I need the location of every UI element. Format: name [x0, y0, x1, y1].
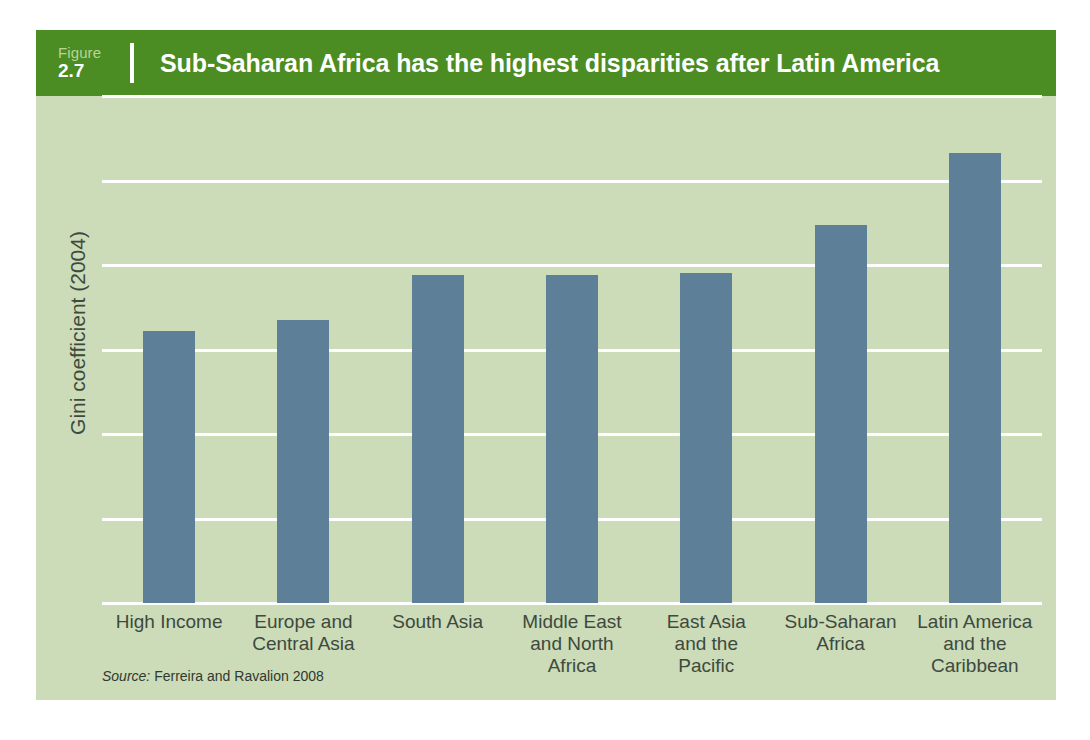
x-axis-tick-label-line: East Asia: [639, 611, 773, 633]
x-axis-tick-label: Europe andCentral Asia: [236, 611, 370, 655]
x-axis-tick-label-line: South Asia: [371, 611, 505, 633]
x-axis-tick-label: Middle Eastand NorthAfrica: [505, 611, 639, 677]
x-axis-tick-label-line: and the: [908, 633, 1042, 655]
bar: [277, 320, 329, 603]
bar: [546, 275, 598, 603]
x-axis-tick-label-line: Latin America: [908, 611, 1042, 633]
gridline: [102, 180, 1042, 183]
x-axis-tick-label-line: Caribbean: [908, 655, 1042, 677]
bar: [143, 331, 195, 603]
plot-wrap: Gini coefficient (2004) 0102030405060 Hi…: [36, 96, 1056, 700]
bar: [412, 275, 464, 603]
x-axis-tick-label: South Asia: [371, 611, 505, 633]
x-axis-tick-label-line: Sub-Saharan: [773, 611, 907, 633]
header-divider: [130, 43, 134, 83]
source-label: Source:: [102, 668, 150, 684]
figure-header: Figure 2.7 Sub-Saharan Africa has the hi…: [36, 30, 1056, 96]
figure-number: 2.7: [58, 61, 130, 81]
figure-panel: Figure 2.7 Sub-Saharan Africa has the hi…: [36, 30, 1056, 700]
x-axis-tick-label-line: High Income: [102, 611, 236, 633]
x-axis-tick-label: Sub-SaharanAfrica: [773, 611, 907, 655]
x-axis-tick-label: High Income: [102, 611, 236, 633]
x-axis-tick-label-line: Central Asia: [236, 633, 370, 655]
bar: [815, 225, 867, 603]
plot-area: 0102030405060 High IncomeEurope andCentr…: [102, 96, 1042, 603]
x-axis-tick-label-line: Pacific: [639, 655, 773, 677]
x-axis-tick-label-line: Africa: [505, 655, 639, 677]
x-axis-tick-label: Latin Americaand theCaribbean: [908, 611, 1042, 677]
bar: [680, 273, 732, 603]
gridline: [102, 95, 1042, 98]
figure-title: Sub-Saharan Africa has the highest dispa…: [160, 49, 939, 78]
bar: [949, 153, 1001, 603]
figure-number-block: Figure 2.7: [36, 45, 130, 81]
x-axis-tick-label-line: and North: [505, 633, 639, 655]
source-note: Source: Ferreira and Ravalion 2008: [102, 668, 324, 684]
x-axis-tick-label-line: Europe and: [236, 611, 370, 633]
x-axis-tick-label-line: and the: [639, 633, 773, 655]
x-axis-tick-label: East Asiaand thePacific: [639, 611, 773, 677]
source-text: Ferreira and Ravalion 2008: [150, 668, 324, 684]
x-axis-tick-label-line: Middle East: [505, 611, 639, 633]
gridline: [102, 264, 1042, 267]
x-axis-tick-label-line: Africa: [773, 633, 907, 655]
y-axis-title: Gini coefficient (2004): [66, 123, 90, 543]
figure-label: Figure: [58, 45, 130, 61]
